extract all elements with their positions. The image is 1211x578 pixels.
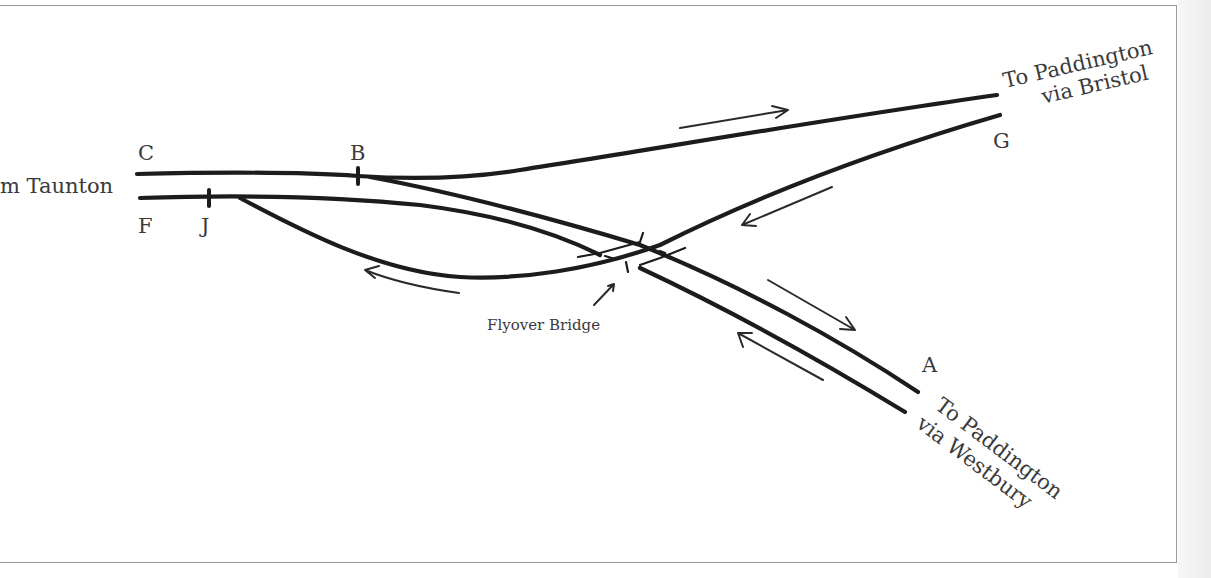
point-label-g: G xyxy=(993,129,1010,153)
point-label-c: C xyxy=(138,141,154,165)
point-label-j: J xyxy=(199,214,209,238)
junction-diagram: C B F J G A m Taunton To Paddington via … xyxy=(0,0,1211,578)
point-label-f: F xyxy=(138,214,153,238)
arrow-up-bristol xyxy=(680,106,788,128)
label-from-taunton: m Taunton xyxy=(0,174,113,198)
track-g-to-j xyxy=(240,115,1000,278)
point-label-b: B xyxy=(350,141,365,165)
arrow-down-from-g xyxy=(742,187,832,226)
track-flyover-to-westbury xyxy=(640,268,905,412)
flyover-pointer-arrow xyxy=(594,284,614,305)
arrow-down-to-westbury xyxy=(768,280,855,330)
track-c-to-bristol xyxy=(137,95,997,178)
point-label-a: A xyxy=(921,353,938,377)
label-flyover-bridge: Flyover Bridge xyxy=(487,316,600,334)
